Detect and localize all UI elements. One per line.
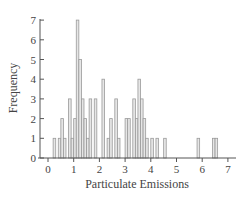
histogram-bar — [89, 99, 92, 158]
y-tick-label: 1 — [31, 132, 37, 144]
histogram-bar — [128, 119, 131, 158]
histogram-bar — [102, 79, 105, 158]
histogram-bar — [156, 138, 159, 158]
x-tick-label: 6 — [199, 163, 205, 175]
x-tick-label: 0 — [45, 163, 51, 175]
x-tick-label: 1 — [71, 163, 77, 175]
histogram-bar — [63, 138, 66, 158]
x-tick-label: 3 — [122, 163, 128, 175]
y-tick-label: 5 — [31, 54, 37, 66]
histogram-bar — [215, 138, 218, 158]
histogram-bar — [197, 138, 200, 158]
x-axis-ticks: 01234567 — [45, 158, 231, 175]
histogram-bar — [117, 138, 120, 158]
histogram-bar — [110, 119, 113, 158]
x-tick-label: 4 — [148, 163, 154, 175]
y-axis-label: Frequency — [6, 63, 20, 114]
y-axis-ticks: 01234567 — [31, 14, 45, 164]
x-axis-label: Particulate Emissions — [85, 177, 189, 191]
y-tick-label: 7 — [31, 14, 37, 26]
histogram-bar — [164, 138, 167, 158]
x-tick-label: 2 — [97, 163, 103, 175]
y-tick-label: 0 — [31, 152, 37, 164]
y-tick-label: 4 — [31, 73, 37, 85]
histogram-bar — [151, 138, 154, 158]
histogram-chart: 01234567 01234567 Particulate Emissions … — [0, 0, 252, 200]
histogram-bars — [53, 20, 217, 158]
histogram-bar — [94, 99, 97, 158]
x-tick-label: 5 — [174, 163, 180, 175]
histogram-bar — [146, 138, 149, 158]
x-tick-label: 7 — [225, 163, 231, 175]
y-tick-label: 2 — [31, 113, 37, 125]
y-tick-label: 3 — [31, 93, 37, 105]
histogram-bar — [53, 138, 56, 158]
y-tick-label: 6 — [31, 34, 37, 46]
